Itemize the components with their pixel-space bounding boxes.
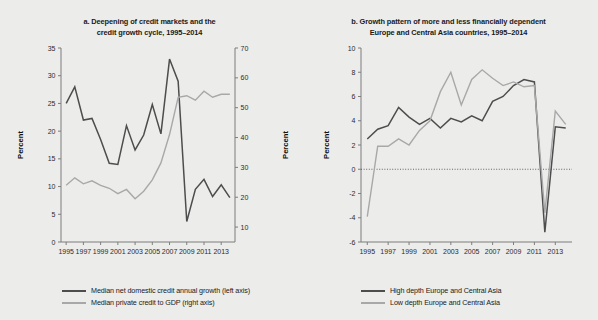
x-tick-label: 1997	[380, 248, 396, 255]
y-tick-label-left: 10	[48, 183, 56, 190]
chart-panel-a: a. Deepening of credit markets and the c…	[0, 0, 299, 320]
panel-b-title: b. Growth pattern of more and less finan…	[307, 17, 590, 38]
x-tick-label: 2011	[196, 248, 211, 255]
series-line-dark	[66, 59, 230, 221]
y-tick-label-left: 4	[352, 117, 356, 124]
panel-b-title-line2: Europe and Central Asia countries, 1995–…	[307, 28, 590, 39]
panel-a-title-line1: a. Deepening of credit markets and the	[8, 17, 291, 28]
x-tick-label: 2013	[547, 248, 563, 255]
y-tick-label-right: 50	[241, 104, 249, 111]
x-tick-label: 1999	[401, 248, 417, 255]
x-tick-label: 2013	[213, 248, 229, 255]
y-tick-label-right: 20	[241, 194, 249, 201]
x-tick-label: 2005	[145, 248, 161, 255]
panel-a-title-line2: credit growth cycle, 1995–2014	[8, 28, 291, 39]
legend-label: Median net domestic credit annual growth…	[91, 286, 250, 295]
y-tick-label-left: 0	[52, 239, 56, 246]
legend-swatch-dark	[361, 290, 385, 292]
series-line-light	[367, 70, 565, 217]
legend-item: High depth Europe and Central Asia	[299, 286, 598, 295]
y-axis-title-left: Percent	[322, 131, 331, 159]
x-tick-label: 2007	[162, 248, 178, 255]
panel-a-title: a. Deepening of credit markets and the c…	[8, 17, 291, 38]
y-axis-title-right: Percent	[281, 131, 290, 159]
x-tick-label: 2003	[443, 248, 459, 255]
y-tick-label-right: 60	[241, 74, 249, 81]
chart-panel-b: b. Growth pattern of more and less finan…	[299, 0, 598, 320]
y-tick-label-left: 0	[352, 166, 356, 173]
y-tick-label-right: 30	[241, 164, 249, 171]
x-tick-label: 2005	[464, 248, 480, 255]
panel-b-legend: High depth Europe and Central Asia Low d…	[299, 286, 598, 310]
legend-label: Low depth Europe and Central Asia	[390, 298, 500, 307]
y-tick-label-left: 25	[48, 100, 56, 107]
x-tick-label: 2001	[110, 248, 126, 255]
y-tick-label-left: 30	[48, 72, 56, 79]
y-tick-label-left: 8	[352, 69, 356, 76]
panel-b-title-line1: b. Growth pattern of more and less finan…	[307, 17, 590, 28]
x-tick-label: 2011	[527, 248, 542, 255]
x-tick-label: 1995	[359, 248, 375, 255]
x-tick-label: 2001	[422, 248, 438, 255]
x-tick-label: 1997	[76, 248, 92, 255]
panel-a-plot: 0510152025303510203040506070199519971999…	[0, 40, 299, 265]
y-tick-label-left: 6	[352, 93, 356, 100]
panel-b-plot: -6-4-20246810199519971999200120032005200…	[299, 40, 598, 265]
y-tick-label-left: -4	[349, 214, 355, 221]
y-tick-label-left: 15	[48, 155, 56, 162]
panel-a-legend: Median net domestic credit annual growth…	[0, 286, 299, 310]
y-tick-label-right: 40	[241, 134, 249, 141]
legend-swatch-light	[361, 302, 385, 304]
y-tick-label-left: 5	[52, 211, 56, 218]
y-tick-label-left: 35	[48, 45, 56, 52]
x-tick-label: 2009	[506, 248, 522, 255]
legend-label: High depth Europe and Central Asia	[390, 286, 501, 295]
legend-item: Median private credit to GDP (right axis…	[0, 298, 299, 307]
legend-label: Median private credit to GDP (right axis…	[91, 298, 215, 307]
x-tick-label: 1999	[93, 248, 109, 255]
legend-item: Median net domestic credit annual growth…	[0, 286, 299, 295]
x-tick-label: 2007	[485, 248, 501, 255]
figure-root: a. Deepening of credit markets and the c…	[0, 0, 598, 320]
legend-swatch-light	[62, 302, 86, 304]
y-tick-label-left: 20	[48, 128, 56, 135]
x-tick-label: 1995	[58, 248, 74, 255]
y-tick-label-left: 2	[352, 142, 356, 149]
y-tick-label-right: 10	[241, 224, 249, 231]
x-tick-label: 2003	[127, 248, 143, 255]
x-tick-label: 2009	[179, 248, 195, 255]
y-axis-title-left: Percent	[16, 131, 25, 159]
y-tick-label-left: -6	[349, 239, 355, 246]
legend-item: Low depth Europe and Central Asia	[299, 298, 598, 307]
y-tick-label-left: -2	[349, 190, 355, 197]
legend-swatch-dark	[62, 290, 86, 292]
y-tick-label-right: 70	[241, 45, 249, 52]
y-tick-label-left: 10	[348, 45, 356, 52]
